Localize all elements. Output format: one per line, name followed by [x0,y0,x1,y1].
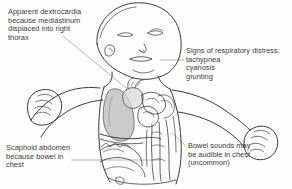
leader-bowel [172,133,186,146]
bowel-loops-in-chest [138,92,176,181]
label-bowel-sounds: Bowel sounds may be audible in chest (un… [188,142,288,168]
left-fist [27,90,61,126]
displaced-heart [123,78,144,109]
scaphoid-abdomen [100,143,145,184]
label-respiratory-distress: Signs of respiratory distress: tachypnea… [186,47,290,82]
neck-and-shoulders [104,72,170,89]
label-scaphoid-abdomen: Scaphoid abdomen because bowel in chest [6,144,102,170]
label-apparent-dextrocardia: Apparent dextrocardia because mediastinu… [8,8,116,43]
left-arm [27,87,103,137]
